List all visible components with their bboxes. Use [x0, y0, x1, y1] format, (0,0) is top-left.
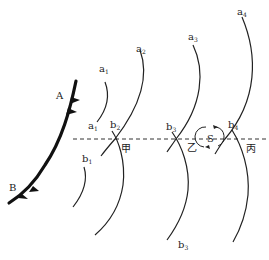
- isobar-b1-arc: [73, 167, 86, 207]
- label-b4: b4: [228, 119, 238, 131]
- label-b1: b1: [82, 153, 92, 165]
- label-a4: a4: [237, 6, 247, 18]
- front-label-b: B: [9, 182, 16, 193]
- label-a3: a3: [188, 31, 198, 43]
- label-a2: a2: [136, 43, 146, 55]
- isobar-b2-curve: [95, 131, 124, 235]
- isobar-a1-arc: [97, 82, 108, 122]
- rotation-arrow-icon: [216, 127, 224, 146]
- weather-diagram: S A B a1 a1 b2 b1 a2 a3 a4 b3 b3 b4 甲 乙 …: [0, 0, 269, 260]
- front-tooth-icon: [70, 97, 80, 104]
- label-a1-top: a1: [99, 63, 109, 75]
- point-label-bing: 丙: [246, 143, 256, 154]
- label-a1-low: a1: [88, 120, 98, 132]
- front-label-a: A: [55, 90, 64, 101]
- label-b2: b2: [110, 119, 120, 131]
- rotation-center: S: [195, 125, 224, 149]
- label-b3-top: b3: [166, 121, 176, 133]
- label-b3-bottom: b3: [178, 239, 188, 251]
- isobar-a2-curve: [101, 50, 144, 156]
- front-tooth-icon: [66, 108, 77, 115]
- center-label: S: [207, 133, 214, 144]
- cold-front-line: [9, 81, 80, 203]
- point-label-yi: 乙: [187, 142, 197, 153]
- point-label-jia: 甲: [121, 143, 131, 154]
